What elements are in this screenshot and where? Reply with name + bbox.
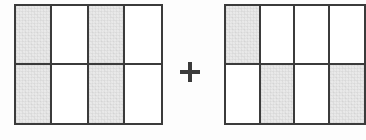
grid-left-cell-r1c1 [16, 6, 52, 65]
grid-left-cell-r1c2 [52, 6, 88, 65]
fraction-grid-right [224, 4, 366, 125]
grid-left-cell-r2c1 [16, 65, 52, 124]
grid-left-cell-r2c3 [89, 65, 125, 124]
fraction-grid-left [14, 4, 163, 125]
grid-left-cell-r1c4 [125, 6, 161, 65]
grid-left-cell-r1c3 [89, 6, 125, 65]
grid-right-cell-r1c4 [330, 6, 365, 65]
grid-left-cell-r2c2 [52, 65, 88, 124]
grid-left-cell-r2c4 [125, 65, 161, 124]
grid-right-cell-r1c1 [226, 6, 261, 65]
plus-icon-vertical-bar [188, 62, 192, 82]
grid-right-cell-r2c1 [226, 65, 261, 124]
grid-right-cell-r1c2 [261, 6, 296, 65]
grid-right-cell-r2c4 [330, 65, 365, 124]
plus-icon: + [177, 59, 203, 85]
grid-right-cell-r2c3 [295, 65, 330, 124]
grid-right-cell-r2c2 [261, 65, 296, 124]
grid-right-cell-r1c3 [295, 6, 330, 65]
